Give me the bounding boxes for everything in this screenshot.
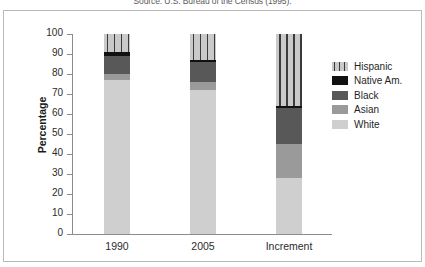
y-axis-tick-label: 50 [52,127,63,138]
y-axis-tick: 50 [67,134,72,135]
stacked-bar[interactable] [190,34,216,234]
y-axis-tick: 90 [67,54,72,55]
legend-item[interactable]: Native Am. [332,74,422,89]
legend-swatch-asian [332,105,348,114]
bar-segment-hispanic[interactable] [190,34,216,60]
bar-segment-white[interactable] [190,90,216,234]
bar-segment-hispanic[interactable] [276,34,302,106]
x-axis-tick-label: Increment [249,240,329,252]
y-axis-tick: 40 [67,154,72,155]
bar-segment-white[interactable] [104,80,130,234]
x-axis-line [72,234,332,235]
figure: Source: U.S. Bureau of the Census (1995)… [0,0,425,267]
legend-item[interactable]: Asian [332,103,422,118]
plot-area: 0102030405060708090100 19902005Increment [72,34,314,234]
y-axis-tick-label: 60 [52,107,63,118]
y-axis-tick: 20 [67,194,72,195]
legend-label: Asian [354,104,379,115]
chart-legend: HispanicNative Am.BlackAsianWhite [332,59,422,132]
legend-swatch-white [332,120,348,129]
x-axis-tick-label: 1990 [77,240,157,252]
legend-label: Hispanic [354,61,392,72]
legend-item[interactable]: Black [332,88,422,103]
bar-segment-native[interactable] [190,60,216,62]
y-axis-tick: 60 [67,114,72,115]
y-axis-tick-label: 0 [57,227,63,238]
y-axis-tick-label: 10 [52,207,63,218]
y-axis-tick: 0 [67,234,72,235]
legend-swatch-hispanic [332,62,348,71]
y-axis-tick-label: 90 [52,47,63,58]
y-axis-tick-label: 40 [52,147,63,158]
y-axis-tick: 100 [67,34,72,35]
y-axis-tick: 70 [67,94,72,95]
bar-segment-white[interactable] [276,178,302,234]
y-axis-title: Percentage [36,65,48,185]
bar-segment-asian[interactable] [104,74,130,80]
bar-segment-black[interactable] [104,56,130,74]
y-axis-tick-label: 70 [52,87,63,98]
legend-label: White [354,119,380,130]
legend-swatch-black [332,91,348,100]
bar-segment-asian[interactable] [190,82,216,90]
y-axis-tick-label: 100 [46,27,63,38]
bar-segment-black[interactable] [276,108,302,144]
y-axis-tick-label: 30 [52,167,63,178]
legend-label: Black [354,90,378,101]
bar-segment-hispanic[interactable] [104,34,130,52]
legend-label: Native Am. [354,75,402,86]
y-axis-tick: 80 [67,74,72,75]
y-axis-tick-label: 20 [52,187,63,198]
stacked-bar[interactable] [104,34,130,234]
stacked-bar[interactable] [276,34,302,234]
x-axis-tick-label: 2005 [163,240,243,252]
bar-segment-native[interactable] [276,106,302,108]
y-axis-tick-label: 80 [52,67,63,78]
bar-segment-asian[interactable] [276,144,302,178]
bar-segment-black[interactable] [190,62,216,82]
y-axis-tick: 30 [67,174,72,175]
legend-item[interactable]: Hispanic [332,59,422,74]
bar-segment-native[interactable] [104,52,130,56]
legend-swatch-native [332,76,348,85]
chart-panel: Percentage 0102030405060708090100 199020… [3,10,422,262]
y-axis-tick: 10 [67,214,72,215]
legend-item[interactable]: White [332,117,422,132]
y-axis-line [72,34,73,234]
figure-caption: Source: U.S. Bureau of the Census (1995)… [0,0,425,6]
